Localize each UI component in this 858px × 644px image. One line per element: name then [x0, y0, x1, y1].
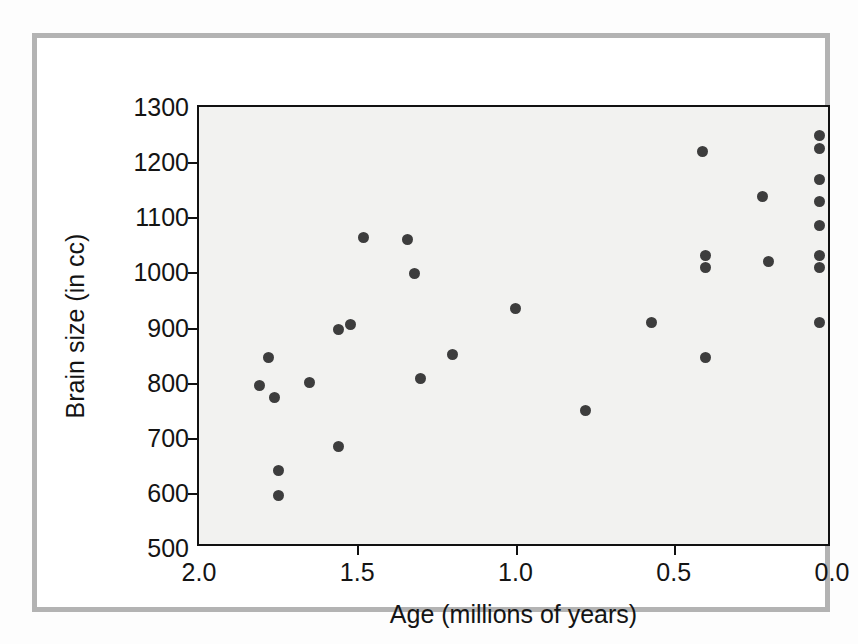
y-axis-title: Brain size (in cc)	[61, 234, 90, 419]
scatter-point	[402, 234, 413, 245]
y-axis-tick-label: 900	[147, 315, 189, 340]
scatter-point	[409, 268, 420, 279]
scatter-point	[358, 232, 369, 243]
y-axis-tick	[188, 162, 199, 164]
y-axis-tick-label: 500	[147, 536, 189, 561]
scatter-point	[269, 392, 280, 403]
y-axis-tick-label: 600	[147, 480, 189, 505]
scatter-point	[757, 191, 768, 202]
scatter-point	[763, 256, 774, 267]
y-axis-tick	[188, 383, 199, 385]
scatter-point	[646, 317, 657, 328]
scatter-plot-surface	[199, 107, 828, 544]
x-axis-tick-label: 0.0	[815, 560, 850, 585]
scatter-point	[447, 349, 458, 360]
scatter-point	[814, 250, 825, 261]
scatter-point	[254, 380, 265, 391]
scatter-point	[333, 324, 344, 335]
x-axis-tick-label: 1.0	[498, 560, 533, 585]
scatter-point	[580, 405, 591, 416]
scatter-point	[345, 319, 356, 330]
y-axis-tick	[188, 438, 199, 440]
y-axis-tick-label: 1000	[133, 260, 189, 285]
x-axis-tick-label: 0.5	[656, 560, 691, 585]
x-axis-tick-label: 2.0	[182, 560, 217, 585]
scatter-point	[263, 352, 274, 363]
scatter-point	[700, 352, 711, 363]
x-axis-tick-label: 1.5	[340, 560, 375, 585]
y-axis-tick	[188, 272, 199, 274]
x-axis-tick	[516, 544, 518, 555]
y-axis-tick	[188, 493, 199, 495]
y-axis-tick-label: 800	[147, 370, 189, 395]
y-axis-tick-label: 700	[147, 425, 189, 450]
figure-outer-frame: 5006007008009001000110012001300 2.01.51.…	[32, 33, 830, 612]
scatter-point	[304, 377, 315, 388]
scatter-point	[700, 250, 711, 261]
scatter-point	[273, 490, 284, 501]
scatter-point	[510, 303, 521, 314]
scatter-point	[415, 373, 426, 384]
y-axis-tick-label: 1100	[135, 205, 189, 230]
plot-area-frame: 5006007008009001000110012001300 2.01.51.…	[197, 105, 830, 546]
scatter-point	[700, 262, 711, 273]
scatter-point	[814, 143, 825, 154]
scatter-point	[814, 262, 825, 273]
scatter-point	[814, 174, 825, 185]
y-axis-tick-label: 1300	[133, 95, 189, 120]
y-axis-tick	[188, 328, 199, 330]
x-axis-tick	[674, 544, 676, 555]
scatter-point	[814, 196, 825, 207]
screenshot-root: 5006007008009001000110012001300 2.01.51.…	[0, 0, 858, 644]
y-axis-tick-label: 1200	[133, 150, 189, 175]
scatter-point	[333, 441, 344, 452]
x-axis-title: Age (millions of years)	[197, 600, 830, 629]
scatter-point	[697, 146, 708, 157]
scatter-point	[814, 220, 825, 231]
scatter-point	[814, 317, 825, 328]
scatter-point	[273, 465, 284, 476]
y-axis-tick	[188, 217, 199, 219]
x-axis-tick	[357, 544, 359, 555]
scatter-point	[814, 130, 825, 141]
